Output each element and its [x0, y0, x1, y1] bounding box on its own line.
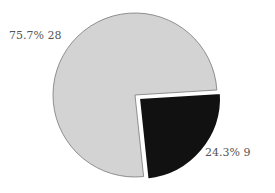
label-large-slice: 75.7% 28: [9, 29, 61, 42]
label-small-slice: 24.3% 9: [205, 146, 250, 159]
pie-slice-small: [139, 93, 221, 180]
